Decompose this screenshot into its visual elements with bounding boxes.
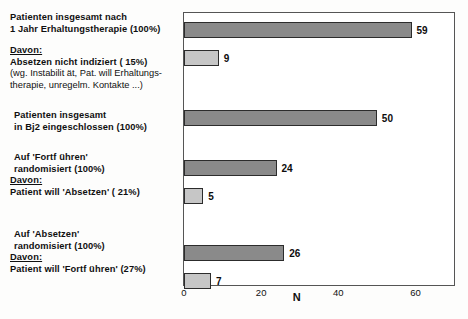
label-line: Absetzen nicht indiziert ( 15%) xyxy=(10,57,182,69)
bar xyxy=(184,160,277,176)
label-line: randomisiert (100%) xyxy=(10,241,182,253)
davon-label: Davon: xyxy=(10,175,182,187)
bar xyxy=(184,110,377,126)
bar xyxy=(184,50,219,66)
x-tick-label: 20 xyxy=(256,287,267,298)
x-tick-label: 60 xyxy=(410,287,421,298)
bar-value-label: 59 xyxy=(417,25,428,36)
label-line: 1 Jahr Erhaltungstherapie (100%) xyxy=(10,24,182,36)
bar xyxy=(184,245,284,261)
label-group-absetzen-nicht-indiziert: Davon: Absetzen nicht indiziert ( 15%) (… xyxy=(10,45,182,91)
label-line: Patient will 'Absetzen' ( 21%) xyxy=(10,187,182,199)
label-line: Patient will 'Fortf ühren' (27%) xyxy=(10,264,182,276)
label-group-fortfuehren-randomisiert: Auf 'Fortf ühren' randomisiert (100%) Da… xyxy=(10,152,182,198)
label-line: Auf 'Fortf ühren' xyxy=(10,152,182,164)
bar xyxy=(184,188,203,204)
label-line: randomisiert (100%) xyxy=(10,164,182,176)
x-axis: N 0204060 xyxy=(183,286,455,319)
label-line: Patienten insgesamt xyxy=(10,110,182,122)
label-group-absetzen-randomisiert: Auf 'Absetzen' randomisiert (100%) Davon… xyxy=(10,229,182,275)
bar-value-label: 26 xyxy=(289,248,300,259)
label-line: in Bj2 eingeschlossen (100%) xyxy=(10,122,182,134)
bar xyxy=(184,22,412,38)
bar-value-label: 50 xyxy=(382,113,393,124)
category-label-column: Patienten insgesamt nach 1 Jahr Erhaltun… xyxy=(0,0,180,319)
label-note-line: (wg. Instabilit ät, Pat. will Erhaltungs… xyxy=(10,68,182,80)
bar-value-label: 24 xyxy=(282,163,293,174)
label-group-total-after-1-year: Patienten insgesamt nach 1 Jahr Erhaltun… xyxy=(10,12,182,35)
label-note-line: therapie, unregelm. Kontakte ...) xyxy=(10,80,182,92)
x-tick-label: 40 xyxy=(333,287,344,298)
bar-value-label: 9 xyxy=(224,53,230,64)
davon-label: Davon: xyxy=(10,252,182,264)
label-line: Auf 'Absetzen' xyxy=(10,229,182,241)
x-axis-title: N xyxy=(293,291,301,303)
x-tick-label: 0 xyxy=(181,287,186,298)
label-group-total-bj2: Patienten insgesamt in Bj2 eingeschlosse… xyxy=(10,110,182,133)
chart-figure: Patienten insgesamt nach 1 Jahr Erhaltun… xyxy=(0,0,468,319)
bar-value-label: 5 xyxy=(208,191,214,202)
label-line: Patienten insgesamt nach xyxy=(10,12,182,24)
plot-area: 59950245267 xyxy=(183,12,455,286)
davon-label: Davon: xyxy=(10,45,182,57)
